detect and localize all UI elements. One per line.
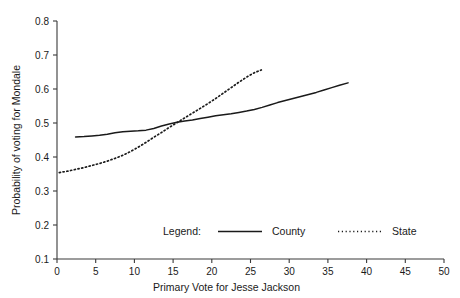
x-tick-label: 5 xyxy=(93,266,99,277)
x-tick-label: 25 xyxy=(245,266,257,277)
y-axis-tick-labels: 0.10.20.30.40.50.60.70.8 xyxy=(35,16,49,265)
y-axis-ticks xyxy=(53,21,57,259)
y-tick-label: 0.4 xyxy=(35,152,49,163)
x-tick-label: 0 xyxy=(54,266,60,277)
series-line-state xyxy=(59,70,261,173)
x-axis-ticks xyxy=(57,259,444,263)
series-line-county xyxy=(76,83,348,137)
y-tick-label: 0.5 xyxy=(35,118,49,129)
y-tick-label: 0.8 xyxy=(35,16,49,27)
legend-title: Legend: xyxy=(163,225,201,237)
x-axis-title: Primary Vote for Jesse Jackson xyxy=(153,281,300,293)
x-tick-label: 45 xyxy=(400,266,412,277)
chart-canvas: 0.10.20.30.40.50.60.70.8 051015202530354… xyxy=(0,0,460,298)
chart-figure: 0.10.20.30.40.50.60.70.8 051015202530354… xyxy=(0,0,460,298)
x-tick-label: 50 xyxy=(438,266,450,277)
y-tick-label: 0.6 xyxy=(35,84,49,95)
x-tick-label: 10 xyxy=(129,266,141,277)
y-axis: 0.10.20.30.40.50.60.70.8 xyxy=(35,16,57,265)
y-tick-label: 0.3 xyxy=(35,186,49,197)
legend-label-state: State xyxy=(392,225,417,237)
x-axis: 05101520253035404550 xyxy=(54,259,450,277)
x-tick-label: 15 xyxy=(168,266,180,277)
y-tick-label: 0.2 xyxy=(35,220,49,231)
x-tick-label: 30 xyxy=(284,266,296,277)
chart-legend: Legend: County State xyxy=(163,225,417,237)
legend-label-county: County xyxy=(272,225,306,237)
x-tick-label: 20 xyxy=(206,266,218,277)
y-tick-label: 0.7 xyxy=(35,50,49,61)
x-axis-tick-labels: 05101520253035404550 xyxy=(54,266,450,277)
y-tick-label: 0.1 xyxy=(35,254,49,265)
data-series-group xyxy=(59,70,348,173)
x-tick-label: 40 xyxy=(361,266,373,277)
y-axis-title: Probability of voting for Mondale xyxy=(10,65,22,215)
x-tick-label: 35 xyxy=(322,266,334,277)
